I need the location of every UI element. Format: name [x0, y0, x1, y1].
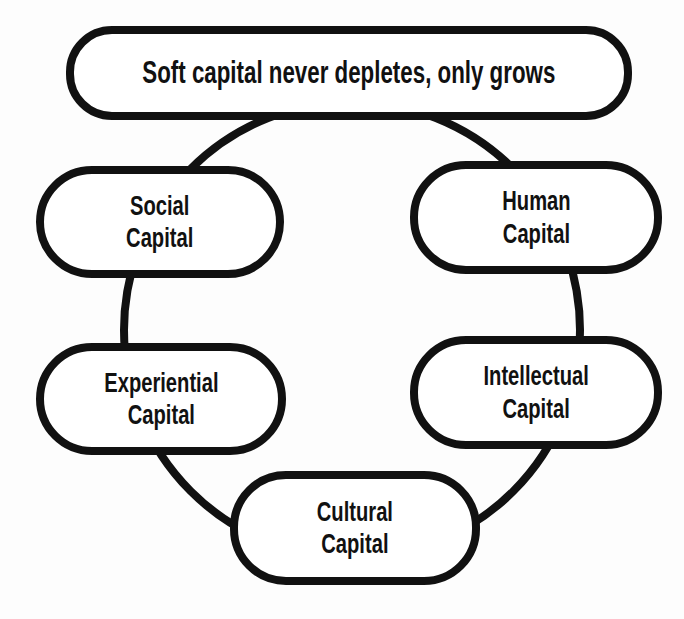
- node-label-line2: Capital: [502, 218, 570, 250]
- title-text: Soft capital never depletes, only grows: [142, 55, 555, 91]
- node-label-line1: Intellectual: [483, 360, 588, 392]
- node-label-line2: Capital: [126, 222, 193, 254]
- node-social-capital: Social Capital: [36, 166, 284, 278]
- node-human-capital: Human Capital: [410, 161, 662, 274]
- node-label-line2: Capital: [104, 399, 218, 431]
- node-label-line1: Cultural: [317, 496, 393, 528]
- node-label-line1: Human: [502, 185, 570, 217]
- node-label-line1: Social: [126, 190, 193, 222]
- node-experiential-capital: Experiential Capital: [36, 343, 286, 455]
- node-label-line1: Experiential: [104, 367, 218, 399]
- node-cultural-capital: Cultural Capital: [230, 471, 480, 585]
- node-label-line2: Capital: [483, 393, 588, 425]
- node-intellectual-capital: Intellectual Capital: [410, 336, 662, 449]
- title-box: Soft capital never depletes, only grows: [66, 26, 632, 120]
- node-label-line2: Capital: [317, 528, 393, 560]
